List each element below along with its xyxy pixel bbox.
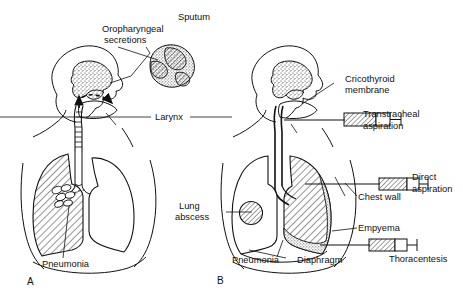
label-chest-wall: Chest wall <box>358 192 401 202</box>
panel-letter-b: B <box>217 275 224 286</box>
label-pneumonia-a: Pneumonia <box>42 259 90 269</box>
label-direct-line1: Direct <box>412 172 437 182</box>
panel-letter-a: A <box>27 276 34 287</box>
label-oropharyngeal-line2: secretions <box>104 35 147 45</box>
label-lung-abscess-line2: abscess <box>175 212 209 222</box>
label-transtracheal-line2: aspiration <box>363 121 403 131</box>
figure-root: Oropharyngeal secretions Sputum Larynx P… <box>0 0 463 299</box>
label-empyema: Empyema <box>358 223 401 233</box>
label-direct-line2: aspiration <box>412 184 452 194</box>
sputum-inset-a <box>150 45 194 87</box>
label-lung-abscess-line1: Lung <box>179 201 200 211</box>
label-pneumonia-b: Pneumonia <box>232 255 280 265</box>
label-cricothyroid-line1: Cricothyroid <box>345 74 395 84</box>
label-cricothyroid-line2: membrane <box>345 85 389 95</box>
label-oropharyngeal-line1: Oropharyngeal <box>102 24 164 34</box>
label-thoracentesis: Thoracentesis <box>389 254 448 264</box>
label-diaphragm: Diaphragm <box>297 255 343 265</box>
label-sputum: Sputum <box>178 12 210 22</box>
lung-abscess-b <box>240 202 263 225</box>
label-transtracheal-line1: Transtracheal <box>363 109 420 119</box>
label-larynx: Larynx <box>155 112 183 122</box>
